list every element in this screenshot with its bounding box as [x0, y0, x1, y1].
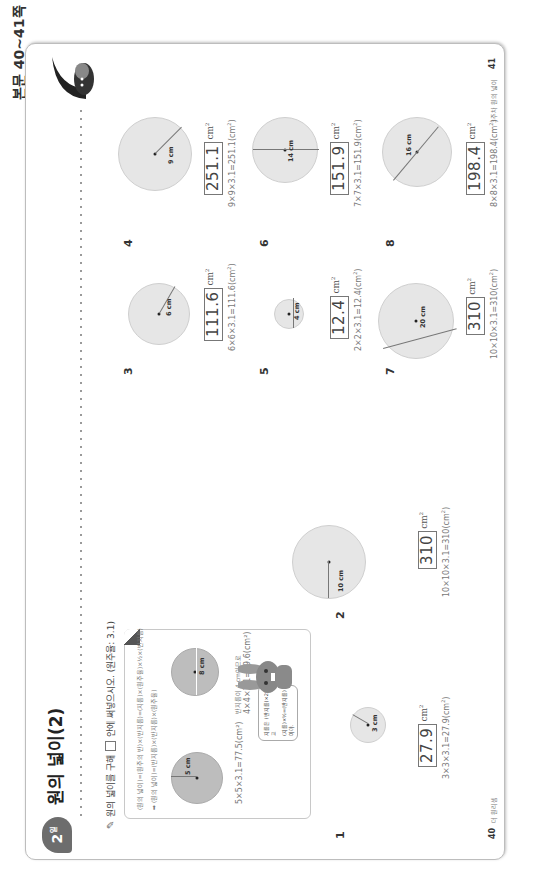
- unit: cm2: [418, 512, 429, 529]
- answer-value: 251.1: [204, 142, 223, 195]
- problem-4-circle: 9 cm: [118, 117, 192, 191]
- unit: cm2: [466, 278, 477, 295]
- problem-1-calc: 3×3×3.1=27.9(cm2): [440, 697, 451, 779]
- problem-number: 1: [334, 831, 347, 839]
- unit: cm2: [330, 277, 341, 294]
- right-page-number: 41: [488, 58, 497, 69]
- example-circle-diameter: 8 cm: [171, 648, 219, 696]
- problem-2-calc: 10×10×3.1=310(cm2): [440, 507, 451, 597]
- rabbit-mascot-icon: [238, 647, 300, 703]
- dotted-divider: [79, 104, 83, 819]
- problem-5-circle: 4 cm: [274, 299, 304, 329]
- problem-5-answer: 12.4 cm2: [330, 277, 349, 339]
- problem-number: 3: [122, 367, 135, 375]
- example-1-calc: 5×5×3.1=77.5(cm²): [235, 722, 244, 804]
- problem-6-answer: 151.9 cm2: [330, 123, 349, 195]
- workbook-spread: 2일 원의 넓이(2) ✎ 원의 넓이를 구해 안에 써넣으시오. (원주율: …: [25, 43, 505, 860]
- problem-1-circle: 3 cm: [350, 707, 386, 743]
- left-page-number: 40: [488, 828, 497, 839]
- instruction-prefix: 원의 넓이를 구해: [104, 755, 117, 817]
- day-badge: 2일: [42, 817, 72, 853]
- instruction: ✎ 원의 넓이를 구해 안에 써넣으시오. (원주율: 3.1): [104, 621, 117, 829]
- problem-1-answer: 27.9 cm2: [418, 705, 437, 767]
- unit: cm2: [204, 269, 215, 286]
- answer-box-icon: [105, 741, 116, 751]
- diameter-label: 8 cm: [198, 658, 206, 675]
- problem-5-calc: 2×2×3.1=12.4(cm2): [352, 269, 363, 351]
- problem-number: 5: [258, 367, 271, 375]
- problem-7-calc: 10×10×3.1=310(cm2): [488, 269, 499, 359]
- diameter-line: [383, 328, 457, 349]
- answer-value: 12.4: [330, 296, 349, 339]
- problem-3-answer: 111.6 cm2: [204, 269, 223, 341]
- radius-label: 6 cm: [165, 299, 173, 316]
- instruction-suffix: 안에 써넣으시오. (원주율: 3.1): [104, 621, 117, 737]
- center-dot: [288, 313, 291, 316]
- area-formula-long: (원의 넓이)=(원주의 반)×(반지름)=(지름)×(원주율)×½×(반지름): [135, 628, 144, 810]
- problem-6-calc: 7×7×3.1=151.9(cm2): [352, 119, 363, 207]
- right-footer-text: 3주차 원의 넓이: [489, 79, 498, 123]
- answer-value: 310: [418, 531, 437, 569]
- center-dot: [415, 320, 418, 323]
- radius-label: 9 cm: [167, 147, 175, 164]
- pencil-icon: ✎: [105, 821, 116, 829]
- problem-number: 8: [384, 239, 397, 247]
- left-footer-text: 더 원리셈: [489, 797, 498, 823]
- unit: cm2: [418, 705, 429, 722]
- diameter-label: 14 cm: [287, 140, 295, 162]
- radius-label: 3 cm: [371, 715, 379, 732]
- cat-mascot-icon: [46, 47, 96, 107]
- problem-number: 6: [258, 239, 271, 247]
- unit: cm2: [466, 123, 477, 140]
- diameter-line: [393, 126, 439, 180]
- problem-2-answer: 310 cm2: [418, 512, 437, 569]
- area-formula-short: ➡ (원의 넓이)=(반지름)×(반지름)×(원주율): [149, 689, 158, 810]
- problem-4-answer: 251.1 cm2: [204, 123, 223, 195]
- problem-7-answer: 310 cm2: [466, 278, 485, 335]
- answer-value: 151.9: [330, 142, 349, 195]
- diameter-label: 16 cm: [405, 134, 413, 156]
- problem-number: 4: [122, 239, 135, 247]
- diameter-line: [253, 149, 319, 150]
- diameter-line: [196, 647, 197, 695]
- problem-7-circle: 20 cm: [378, 283, 454, 359]
- radius-label: 5 cm: [184, 758, 192, 775]
- problem-number: 7: [384, 367, 397, 375]
- problem-3-calc: 6×6×3.1=111.6(cm2): [226, 263, 237, 351]
- answer-value: 27.9: [418, 724, 437, 767]
- problem-3-circle: 6 cm: [128, 283, 190, 345]
- day-suffix: 일: [48, 827, 58, 833]
- problem-2-circle: 10 cm: [292, 525, 366, 599]
- day-number: 2: [49, 834, 65, 844]
- problem-8-calc: 8×8×3.1=198.4(cm2): [488, 119, 499, 207]
- page-title: 원의 넓이(2): [42, 708, 67, 805]
- radius-line: [171, 776, 197, 777]
- problem-6-circle: 14 cm: [252, 117, 318, 183]
- diameter-label: 4 cm: [293, 303, 301, 320]
- radius-line: [352, 714, 368, 724]
- answer-value: 310: [466, 297, 485, 335]
- radius-label: 10 cm: [337, 570, 345, 592]
- problem-4-calc: 9×9×3.1=251.1(cm2): [226, 119, 237, 207]
- radius-line: [328, 561, 329, 598]
- problem-number: 2: [334, 611, 347, 619]
- unit: cm2: [204, 123, 215, 140]
- example-circle-radius: 5 cm: [171, 752, 223, 804]
- problem-8-circle: 16 cm: [382, 117, 452, 187]
- diameter-label: 20 cm: [419, 306, 427, 328]
- problem-8-answer: 198.4 cm2: [466, 123, 485, 195]
- answer-value: 198.4: [466, 142, 485, 195]
- unit: cm2: [330, 123, 341, 140]
- answer-value: 111.6: [204, 288, 223, 341]
